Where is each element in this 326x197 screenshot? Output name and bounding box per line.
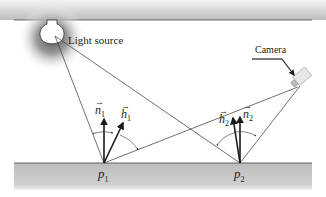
point-label-p1: p1 [98, 167, 109, 184]
vector-label-n2: →n2 [243, 108, 253, 123]
angle-arc-p2-left [218, 133, 234, 144]
point-label-p2: p2 [234, 167, 245, 184]
camera-icon [289, 67, 312, 89]
vector-label-h2: →h2 [219, 113, 229, 128]
vector-label-n1: →n1 [95, 104, 105, 119]
halfway-vector-h2 [233, 118, 240, 163]
angle-arc-p2-right [236, 132, 256, 136]
light-rays [55, 36, 300, 163]
camera-label: Camera [255, 45, 286, 55]
light-source-label: Light source [68, 35, 123, 46]
floor-surface [14, 163, 312, 190]
vector-label-h1: →h1 [121, 108, 131, 123]
angle-arc-p1-right [120, 135, 138, 150]
camera-pointer [252, 59, 294, 75]
reflection-diagram: Light source Camera →n1 →h1 →h2 →n2 p1 p… [0, 0, 326, 197]
diagram-canvas [0, 0, 326, 197]
